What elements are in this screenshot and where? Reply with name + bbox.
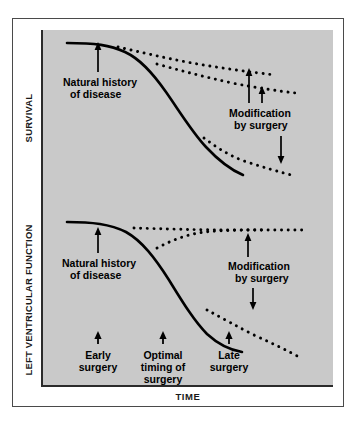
lvf-modification-label-line2: by surgery [235,272,289,284]
x-tick-label-late-line1: Late [218,349,240,361]
figure-root: Natural history of disease Modification … [0,0,357,422]
lvf-modification-label-line1: Modification [228,260,290,272]
x-tick-label-optimal-line2: timing of [141,361,186,373]
chart-canvas: Natural history of disease Modification … [0,0,357,422]
survival-axis-title: SURVIVAL [23,94,34,143]
x-tick-label-early-line1: Early [85,349,111,361]
x-tick-label-late-line2: surgery [210,361,249,373]
lvf-axis-title: LEFT VENTRICULAR FUNCTION [23,224,34,375]
x-tick-label-optimal-line3: surgery [144,373,183,385]
survival-natural-history-label-line1: Natural history [63,76,137,88]
lvf-natural-history-label-line1: Natural history [62,257,136,269]
survival-natural-history-label-line2: of disease [70,88,122,100]
survival-modification-label-line2: by surgery [234,119,288,131]
x-tick-label-optimal-line1: Optimal [143,349,182,361]
lvf-natural-history-label-line2: of disease [70,269,122,281]
x-axis-title: TIME [175,391,200,402]
x-tick-label-early-line2: surgery [79,361,118,373]
survival-modification-label-line1: Modification [229,107,291,119]
